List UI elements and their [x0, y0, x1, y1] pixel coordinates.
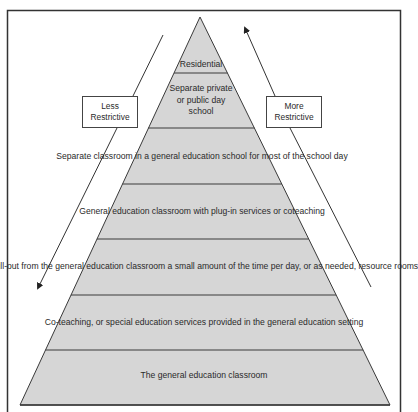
layer-label-residential: Residential [180, 59, 223, 71]
less-restrictive-box: Less Restrictive [82, 96, 138, 128]
left-arrow-upper-segment [133, 35, 163, 96]
more-restrictive-label: More Restrictive [274, 101, 313, 123]
layer-label-separate-classroom: Separate classroom in a general educatio… [56, 151, 347, 163]
layer-label-pull-out-resource: Pull-out from the general education clas… [0, 261, 418, 273]
less-restrictive-label: Less Restrictive [90, 101, 129, 123]
layer-label-gen-ed-plug-in: General education classroom with plug-in… [79, 206, 325, 218]
layer-label-co-teaching: Co-teaching, or special education servic… [45, 317, 364, 329]
layer-label-general-classroom: The general education classroom [140, 370, 267, 382]
right-arrow-upper-segment [245, 28, 275, 96]
more-restrictive-box: More Restrictive [266, 96, 322, 128]
layer-label-separate-day-school: Separate private or public day school [169, 83, 232, 118]
